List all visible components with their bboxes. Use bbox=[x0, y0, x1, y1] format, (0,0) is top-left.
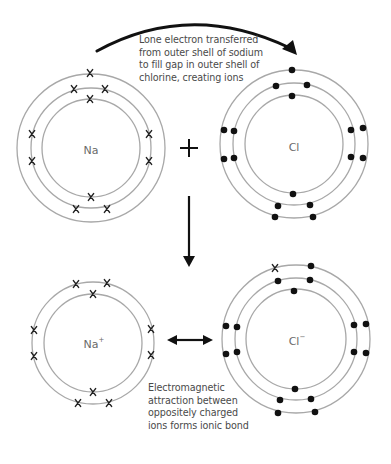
bond-caption-line: ions forms ionic bond bbox=[148, 420, 249, 433]
bond-caption: Electromagnetic attraction between oppos… bbox=[148, 382, 249, 432]
sodium-atom-label: Na bbox=[84, 144, 99, 157]
transfer-caption-line: to fill gap in outer shell of bbox=[139, 59, 263, 72]
negative-charge: − bbox=[299, 333, 305, 341]
transfer-caption-line: chlorine, creating ions bbox=[139, 72, 263, 85]
positive-charge: + bbox=[99, 336, 105, 344]
transfer-caption-line: Lone electron transferred bbox=[139, 34, 263, 47]
plus-icon bbox=[180, 139, 198, 157]
sodium-ion-label: Na+ bbox=[84, 337, 105, 351]
transfer-caption-line: from outer shell of sodium bbox=[139, 47, 263, 60]
chloride-ion-label: Cl− bbox=[289, 334, 306, 348]
transfer-caption: Lone electron transferred from outer she… bbox=[139, 34, 263, 84]
double-headed-arrow-icon bbox=[167, 335, 213, 345]
down-arrow-icon bbox=[183, 196, 195, 267]
bond-caption-line: Electromagnetic bbox=[148, 382, 249, 395]
chlorine-atom-label: Cl bbox=[289, 141, 300, 154]
bond-caption-line: oppositely charged bbox=[148, 407, 249, 420]
bond-caption-line: attraction between bbox=[148, 395, 249, 408]
